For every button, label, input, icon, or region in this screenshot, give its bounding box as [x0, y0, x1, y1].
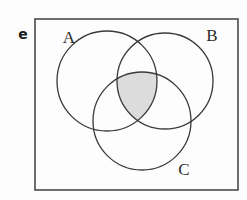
set-label-a: A: [60, 29, 78, 47]
set-label-c: C: [175, 161, 193, 179]
set-label-b: B: [203, 27, 221, 45]
venn-diagram-figure: e A B C: [0, 0, 247, 200]
